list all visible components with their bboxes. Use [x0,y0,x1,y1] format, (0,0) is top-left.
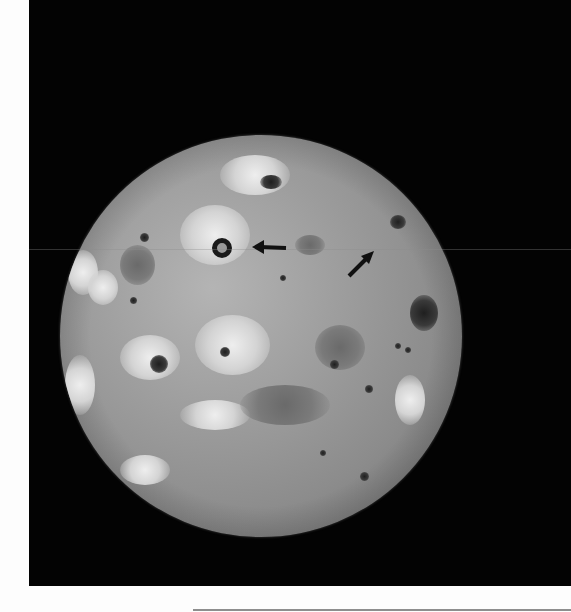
dark-spot [280,275,286,281]
gray-region [315,325,365,370]
bright-region [120,455,170,485]
bright-region [65,355,95,415]
bright-region [88,270,118,305]
gray-region [240,385,330,425]
dark-spot [405,347,411,353]
dark-spot [455,255,462,285]
gray-region [295,235,325,255]
dark-spot [395,343,401,349]
dark-spot [365,385,373,393]
dark-ring-feature [212,238,232,258]
photo-frame [29,0,571,586]
gray-region [120,245,155,285]
dark-spot [130,297,137,304]
bright-region [220,155,290,195]
scan-line-artifact [29,249,571,250]
left-arrow-annotation [250,238,290,258]
dark-spot [260,175,282,189]
moon-disc [60,135,462,537]
dark-spot [360,472,369,481]
dark-spot [320,450,326,456]
bright-region [120,335,180,380]
dark-spot [220,347,230,357]
bright-region [395,375,425,425]
bottom-rule [193,609,571,611]
dark-spot [390,215,406,229]
dark-spot [330,360,339,369]
dark-spot [140,233,149,242]
dark-spot [410,295,438,331]
bright-region [195,315,270,375]
up-right-arrow-annotation [345,248,377,280]
dark-spot [150,355,168,373]
